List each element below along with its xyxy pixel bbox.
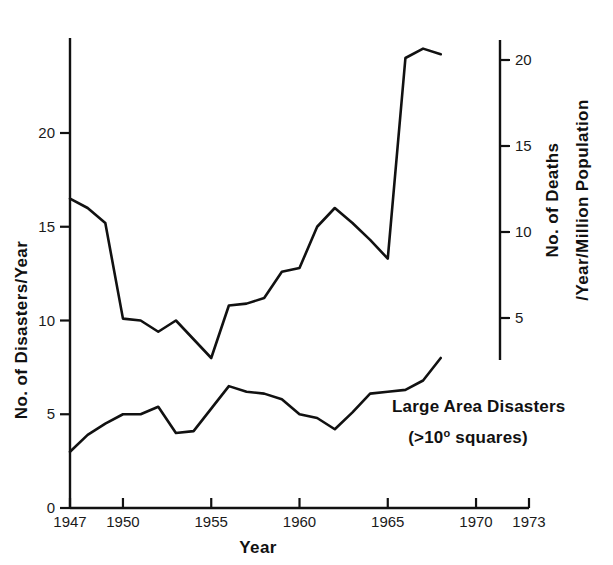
x-tick-label-1970: 1970 <box>459 513 492 530</box>
left-axis-tick-labels: 05101520 <box>38 124 55 516</box>
annotation-suffix: squares) <box>450 428 527 447</box>
x-tick-label-1955: 1955 <box>195 513 228 530</box>
right-axis-tick-labels: 5101520 <box>515 51 532 326</box>
left-tick-label-15: 15 <box>38 218 55 235</box>
right-tick-label-10: 10 <box>515 223 532 240</box>
right-tick-label-5: 5 <box>515 309 523 326</box>
right-tick-label-15: 15 <box>515 137 532 154</box>
left-tick-label-10: 10 <box>38 312 55 329</box>
right-axis-title-line1: No. of Deaths <box>543 143 562 258</box>
x-axis: 1947195019551960196519701973 Year <box>53 498 545 557</box>
chart-annotation: Large Area Disasters (>10o squares) <box>392 397 565 447</box>
annotation-line-2: (>10o squares) <box>408 427 528 447</box>
annotation-line-1: Large Area Disasters <box>392 397 565 416</box>
x-tick-label-1947: 1947 <box>53 513 86 530</box>
left-axis-ticks <box>60 133 70 508</box>
x-axis-ticks <box>70 498 529 508</box>
series-line-all-disasters <box>70 49 441 358</box>
chart-canvas: 05101520 No. of Disasters/Year 5101520 N… <box>0 0 613 565</box>
x-axis-tick-labels: 1947195019551960196519701973 <box>53 513 545 530</box>
left-axis-title: No. of Disasters/Year <box>12 241 31 419</box>
right-axis: 5101520 No. of Deaths /Year/Million Popu… <box>500 40 592 360</box>
x-tick-label-1960: 1960 <box>283 513 316 530</box>
annotation-prefix: (>10 <box>408 428 443 447</box>
left-axis: 05101520 No. of Disasters/Year <box>12 38 70 516</box>
x-tick-label-1973: 1973 <box>512 513 545 530</box>
right-axis-title-line2: /Year/Million Population <box>573 99 592 300</box>
left-tick-label-20: 20 <box>38 124 55 141</box>
chart-figure: 05101520 No. of Disasters/Year 5101520 N… <box>0 0 613 565</box>
x-tick-label-1950: 1950 <box>106 513 139 530</box>
series-group <box>70 49 441 452</box>
left-tick-label-5: 5 <box>47 405 55 422</box>
right-axis-ticks <box>500 60 510 318</box>
series-line-large-area-disasters <box>70 358 441 452</box>
x-tick-label-1965: 1965 <box>371 513 404 530</box>
right-tick-label-20: 20 <box>515 51 532 68</box>
x-axis-title: Year <box>239 538 277 557</box>
